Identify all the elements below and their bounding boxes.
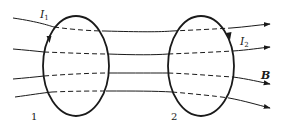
current-loop-1 xyxy=(43,16,109,116)
loop-2-label: 2 xyxy=(171,112,177,122)
field-line-4 xyxy=(15,91,270,108)
magnetic-field-label: B xyxy=(261,70,270,81)
current-1-label: I1 xyxy=(40,9,49,22)
field-line-1 xyxy=(13,18,270,32)
current-2-label: I2 xyxy=(240,36,249,49)
loop-1-label: 1 xyxy=(31,112,37,122)
current-loop-2 xyxy=(168,16,234,116)
diagram-canvas: I1 I2 B 1 2 xyxy=(0,0,281,134)
